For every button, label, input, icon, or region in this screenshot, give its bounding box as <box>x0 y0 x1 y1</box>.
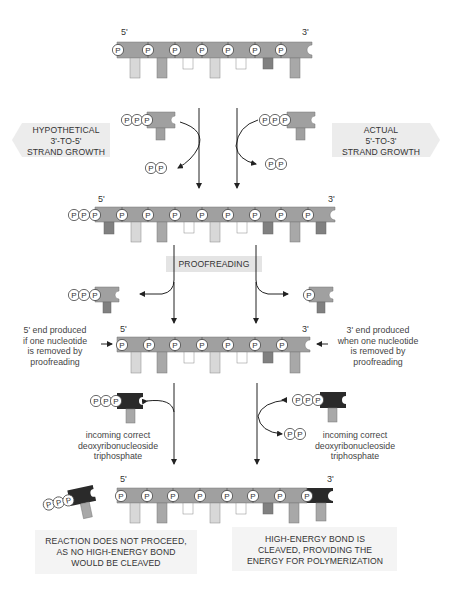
left-incoming-nucleotide <box>121 112 175 140</box>
right-pyrophosphate-lower <box>284 428 305 439</box>
left-incoming-dark-nucleotide <box>90 393 143 423</box>
diagram-canvas: P <box>0 0 449 596</box>
strand-2-3prime: 3' <box>328 194 335 204</box>
strand-1-bases <box>130 58 300 78</box>
actual-growth-label: ACTUAL 5'-TO-3' STRAND GROWTH <box>333 125 429 158</box>
strand-4-bases <box>130 503 326 523</box>
strand-3-5prime: 5' <box>120 324 127 334</box>
incoming-left-label: incoming correct deoxyribonucleoside tri… <box>68 430 168 462</box>
hypothetical-growth-label: HYPOTHETICAL 3'-TO-5' STRAND GROWTH <box>22 125 110 158</box>
strand-2-bases <box>104 222 326 242</box>
upper-reactions <box>121 108 315 188</box>
five-prime-end-note: 5' end produced if one nucleotide is rem… <box>10 325 100 367</box>
strand-1 <box>112 42 312 78</box>
removed-nucleotide-left <box>68 287 119 313</box>
rejected-nucleotide <box>41 485 99 526</box>
incoming-right-label: incoming correct deoxyribonucleoside tri… <box>305 430 405 462</box>
right-incoming-nucleotide <box>259 112 315 140</box>
strand-2-5prime: 5' <box>98 194 105 204</box>
strand-3-bases <box>131 352 300 373</box>
strand-4-5prime: 5' <box>120 474 127 484</box>
left-pyrophosphate <box>145 162 166 173</box>
strand-1-5prime: 5' <box>121 27 128 37</box>
result-right-label: HIGH-ENERGY BOND IS CLEAVED, PROVIDING T… <box>228 534 402 567</box>
three-prime-end-note: 3' end produced when one nucleotide is r… <box>328 325 428 367</box>
right-incoming-dark-nucleotide <box>292 392 346 422</box>
strand-3 <box>101 337 328 373</box>
strand-3-3prime: 3' <box>302 324 309 334</box>
strand-2 <box>68 207 335 242</box>
proofreading-label: PROOFREADING <box>166 259 262 270</box>
strand-4-3prime: 3' <box>327 474 334 484</box>
strand-4 <box>115 488 333 523</box>
strand-1-3prime: 3' <box>302 27 309 37</box>
result-left-label: REACTION DOES NOT PROCEED, AS NO HIGH-EN… <box>30 536 202 569</box>
right-pyrophosphate <box>265 158 286 169</box>
removed-nucleotide-right <box>303 287 333 313</box>
